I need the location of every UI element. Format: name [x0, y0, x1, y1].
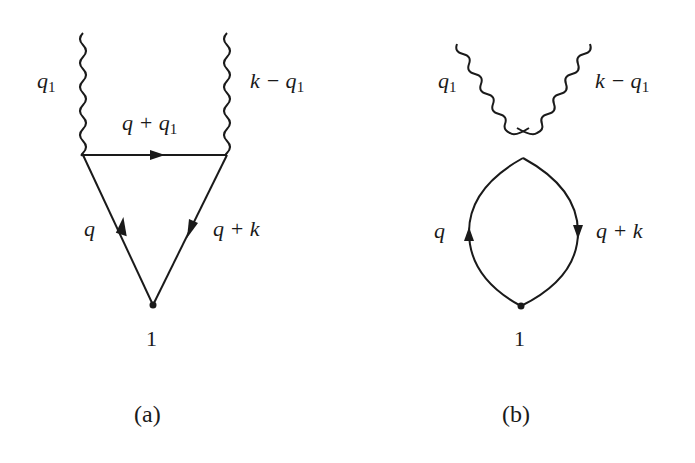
arrow-up-icon — [464, 227, 474, 241]
label-photon-left-a: q1 — [37, 70, 56, 92]
label-photon-left-b: q1 — [438, 70, 457, 92]
arrow-right-icon — [150, 150, 165, 160]
photon-line-left-b — [456, 44, 529, 134]
propagator-right-b — [521, 158, 578, 306]
photon-line-left-a — [80, 33, 86, 155]
arrows-b — [464, 225, 583, 310]
label-vertex-a: 1 — [146, 328, 157, 350]
label-propagator-left-b: q — [434, 220, 445, 242]
propagator-left-b — [469, 158, 523, 306]
label-photon-right-b: k − q1 — [595, 70, 649, 92]
label-photon-right-a: k − q1 — [250, 70, 304, 92]
diagram-b — [456, 44, 591, 306]
label-propagator-left-a: q — [84, 218, 95, 240]
diagram-a — [80, 33, 230, 305]
vertex-dot-b — [518, 303, 525, 310]
label-propagator-top-a: q + q1 — [122, 112, 177, 134]
vertex-dot-a — [150, 302, 157, 309]
label-propagator-right-b: q + k — [596, 220, 643, 242]
photon-line-right-b — [517, 44, 591, 134]
arrow-down-icon — [573, 225, 583, 239]
caption-b: (b) — [502, 402, 530, 426]
photon-line-right-a — [224, 33, 230, 155]
feynman-diagrams — [0, 0, 695, 463]
caption-a: (a) — [134, 402, 161, 426]
arrows-a — [116, 150, 198, 309]
label-vertex-b: 1 — [514, 328, 525, 350]
label-propagator-right-a: q + k — [213, 218, 260, 240]
arrow-down-icon — [187, 219, 198, 238]
